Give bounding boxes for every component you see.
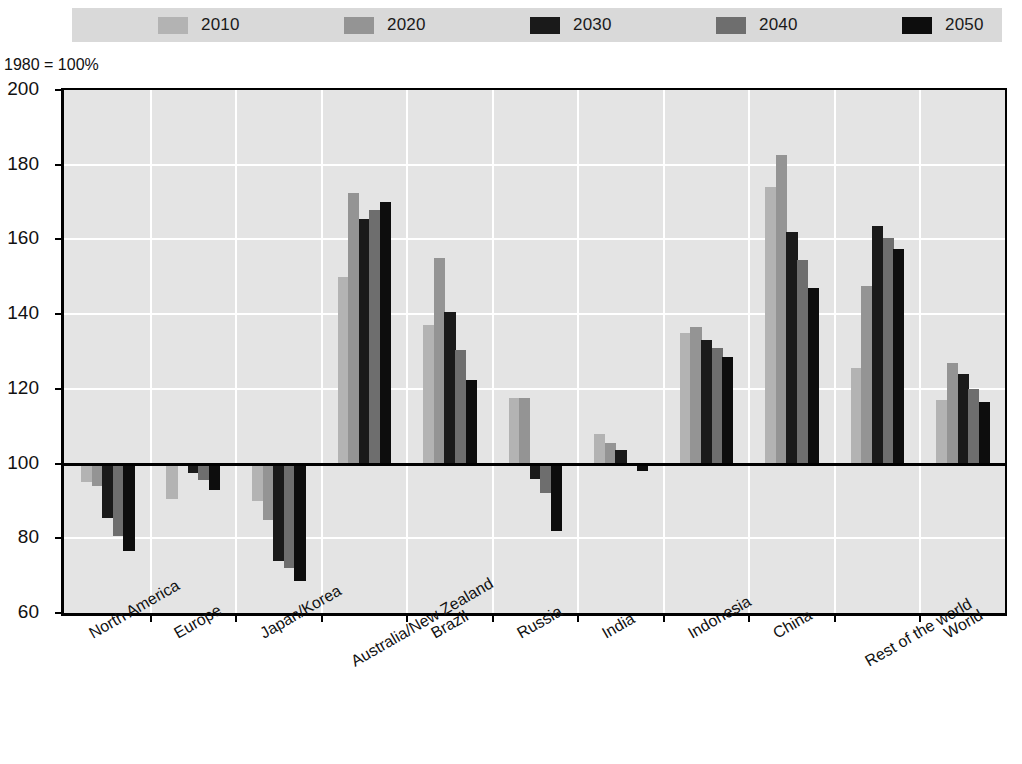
bar (519, 398, 530, 463)
y-axis-label: 140 (0, 302, 39, 324)
bar (81, 464, 92, 483)
bar (968, 389, 979, 464)
bar (123, 464, 134, 552)
bar (284, 464, 295, 569)
bar (958, 374, 969, 464)
bar (380, 202, 391, 464)
bar (294, 464, 305, 582)
bar (680, 333, 691, 464)
gridline-vertical (748, 90, 750, 613)
y-axis-label: 100 (0, 452, 39, 474)
bar (540, 464, 551, 494)
bar (113, 464, 124, 537)
bar (359, 219, 370, 464)
y-axis-label: 180 (0, 153, 39, 175)
y-axis-tick (55, 612, 64, 614)
y-axis-tick (55, 537, 64, 539)
bar (851, 368, 862, 463)
gridline-vertical (919, 90, 921, 613)
bar (509, 398, 520, 463)
y-axis-tick (55, 238, 64, 240)
y-axis-tick (55, 164, 64, 166)
x-axis-tick (834, 613, 836, 622)
gridline-vertical (577, 90, 579, 613)
chart-plot-area: 6080100120140160180200 (61, 88, 1007, 616)
bar (434, 258, 445, 463)
bar (979, 402, 990, 464)
bar (455, 350, 466, 464)
bar (444, 312, 455, 463)
bar (861, 286, 872, 463)
bar (936, 400, 947, 464)
bar (530, 464, 541, 479)
gridline-vertical (235, 90, 237, 613)
bar (209, 464, 220, 490)
bar (701, 340, 712, 463)
gridline-horizontal (64, 238, 1005, 240)
bar (797, 260, 808, 464)
baseline-100 (64, 463, 1005, 466)
bar (369, 210, 380, 464)
bar (786, 232, 797, 464)
y-axis-tick (55, 313, 64, 315)
gridline-vertical (321, 90, 323, 613)
bar (712, 348, 723, 464)
x-axis-tick (663, 613, 665, 622)
y-axis-tick (55, 388, 64, 390)
bar (947, 363, 958, 464)
gridline-vertical (406, 90, 408, 613)
x-axis-tick (492, 613, 494, 622)
y-axis-label: 160 (0, 227, 39, 249)
bar (690, 327, 701, 463)
bar (872, 226, 883, 463)
x-axis-tick (577, 613, 579, 622)
bar (423, 325, 434, 463)
x-axis-tick (150, 613, 152, 622)
bar (348, 193, 359, 464)
bar (263, 464, 274, 520)
y-axis-label: 120 (0, 377, 39, 399)
bar (594, 434, 605, 464)
gridline-vertical (663, 90, 665, 613)
bar (92, 464, 103, 486)
gridline-horizontal (64, 537, 1005, 539)
chart-plot-wrapper: 6080100120140160180200 North AmericaEuro… (0, 0, 1022, 764)
bar (198, 464, 209, 481)
y-axis-tick (55, 89, 64, 91)
bar (605, 443, 616, 464)
bar (273, 464, 284, 561)
bar (883, 238, 894, 464)
gridline-horizontal (64, 164, 1005, 166)
bar (102, 464, 113, 518)
bar (252, 464, 263, 501)
y-axis-label: 60 (0, 601, 39, 623)
gridline-vertical (492, 90, 494, 613)
bar (808, 288, 819, 464)
y-axis-tick (55, 463, 64, 465)
x-axis-tick (748, 613, 750, 622)
y-axis-label: 80 (0, 526, 39, 548)
bar (722, 357, 733, 463)
gridline-vertical (150, 90, 152, 613)
bar (466, 380, 477, 464)
x-axis-tick (321, 613, 323, 622)
y-axis-label: 200 (0, 78, 39, 100)
bar (776, 155, 787, 463)
bar (338, 277, 349, 464)
bar (893, 249, 904, 464)
gridline-vertical (834, 90, 836, 613)
bar (765, 187, 776, 463)
x-axis-tick (235, 613, 237, 622)
bar (551, 464, 562, 531)
bar (166, 464, 177, 499)
